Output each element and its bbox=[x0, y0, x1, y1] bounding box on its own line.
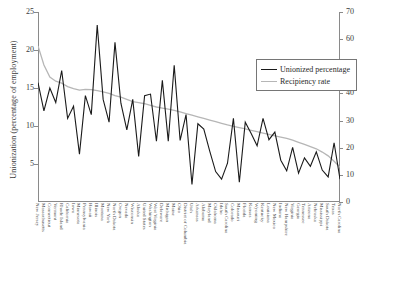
y-tick-label-left: 5 bbox=[4, 159, 34, 168]
y-tick-label-right: 30 bbox=[346, 116, 376, 125]
x-tick-label: Kentucky bbox=[260, 203, 265, 222]
legend-label-recipiency: Recipiency rate bbox=[280, 77, 330, 86]
x-tick-label: Missouri bbox=[236, 203, 241, 221]
x-tick-label: Michigan bbox=[165, 203, 170, 222]
x-tick-label: Pennsylvania bbox=[82, 203, 87, 230]
x-tick-label: Arkansas bbox=[195, 203, 200, 222]
y-tick-label-left: 25 bbox=[4, 7, 34, 16]
x-tick-label: Maine bbox=[171, 203, 176, 216]
x-tick-label: Alabama bbox=[201, 203, 206, 221]
line-unionized-percentage bbox=[38, 25, 340, 185]
y-tick-label-right: 70 bbox=[346, 7, 376, 16]
x-tick-label: Illinois bbox=[94, 203, 99, 217]
x-tick-label: Hawaii bbox=[88, 203, 93, 217]
x-tick-label: Colorado bbox=[230, 203, 235, 222]
x-tick-label: District of Columbia bbox=[183, 203, 188, 244]
y-tick-label-right: 60 bbox=[346, 34, 376, 43]
y-tick-label-left: 20 bbox=[4, 45, 34, 54]
plot-area: 510152025 010203040506070 Unionized perc… bbox=[38, 12, 340, 202]
y-tick-label-left: 10 bbox=[4, 121, 34, 130]
x-tick-label: Massachusetts bbox=[41, 203, 46, 232]
x-tick-label: Idaho bbox=[219, 203, 224, 214]
x-tick-label: Rhode Island bbox=[59, 203, 64, 230]
x-tick-label: Wyoming bbox=[254, 203, 259, 223]
x-tick-label: Connecticut bbox=[47, 203, 52, 227]
x-tick-label: Minnesota bbox=[76, 203, 81, 224]
chart-legend: Unionized percentage Recipiency rate bbox=[256, 59, 357, 91]
x-tick-label: South Carolina bbox=[224, 203, 229, 233]
series-lines bbox=[38, 12, 340, 202]
x-tick-label: Nebraska bbox=[313, 203, 318, 222]
x-tick-label: Vermont bbox=[53, 203, 58, 220]
x-tick-label: Indiana bbox=[278, 203, 283, 218]
x-tick-label: New Mexico bbox=[272, 203, 277, 229]
x-tick-label: United States bbox=[142, 203, 147, 230]
x-tick-label: North Dakota bbox=[112, 203, 117, 230]
x-tick-label: Florida bbox=[242, 203, 247, 217]
legend-label-unionized: Unionized percentage bbox=[280, 65, 350, 74]
x-axis-labels: New JerseyMassachusettsConnecticutVermon… bbox=[38, 203, 340, 286]
x-tick-label: Oklahoma bbox=[213, 203, 218, 224]
x-tick-label: Washington bbox=[148, 203, 153, 227]
chart-container: Unionization (percentage of employment) … bbox=[0, 0, 416, 286]
x-tick-label: Maryland bbox=[207, 203, 212, 222]
legend-item-unionized: Unionized percentage bbox=[261, 63, 350, 75]
x-tick-label: Georgia bbox=[296, 203, 301, 219]
legend-item-recipiency: Recipiency rate bbox=[261, 75, 350, 87]
x-tick-label: New Jersey bbox=[35, 203, 40, 226]
y-tick-label-right: 0 bbox=[346, 197, 376, 206]
x-tick-label: Kansas bbox=[248, 203, 253, 217]
legend-swatch-recipiency bbox=[261, 81, 277, 82]
legend-swatch-unionized bbox=[261, 69, 277, 70]
y-tick-label-right: 10 bbox=[346, 170, 376, 179]
x-tick-label: Virginia bbox=[290, 203, 295, 219]
x-tick-label: Alaska bbox=[136, 203, 141, 217]
x-tick-label: New York bbox=[106, 203, 111, 223]
x-tick-label: West Virginia bbox=[153, 203, 158, 230]
x-tick-label: Texas bbox=[331, 203, 336, 215]
x-tick-label: Mississippi bbox=[319, 203, 324, 226]
x-tick-label: Arizona bbox=[307, 203, 312, 219]
x-tick-label: Iowa bbox=[71, 203, 76, 213]
x-tick-label: Louisiana bbox=[266, 203, 271, 223]
x-tick-label: Wisconsin bbox=[130, 203, 135, 224]
x-tick-label: Montana bbox=[100, 203, 105, 221]
x-tick-label: Nevada bbox=[124, 203, 129, 218]
x-tick-label: Delaware bbox=[159, 203, 164, 222]
x-tick-label: California bbox=[65, 203, 70, 223]
x-tick-label: North Carolina bbox=[337, 203, 342, 233]
x-tick-label: Oregon bbox=[118, 203, 123, 218]
y-tick-label-right: 20 bbox=[346, 143, 376, 152]
x-tick-label: Tennessee bbox=[301, 203, 306, 223]
y-tick-label-left: 15 bbox=[4, 83, 34, 92]
x-tick-label: Ohio bbox=[177, 203, 182, 213]
x-tick-label: South Dakota bbox=[325, 203, 330, 230]
x-tick-label: Utah bbox=[189, 203, 194, 213]
x-tick-label: New Hampshire bbox=[284, 203, 289, 236]
